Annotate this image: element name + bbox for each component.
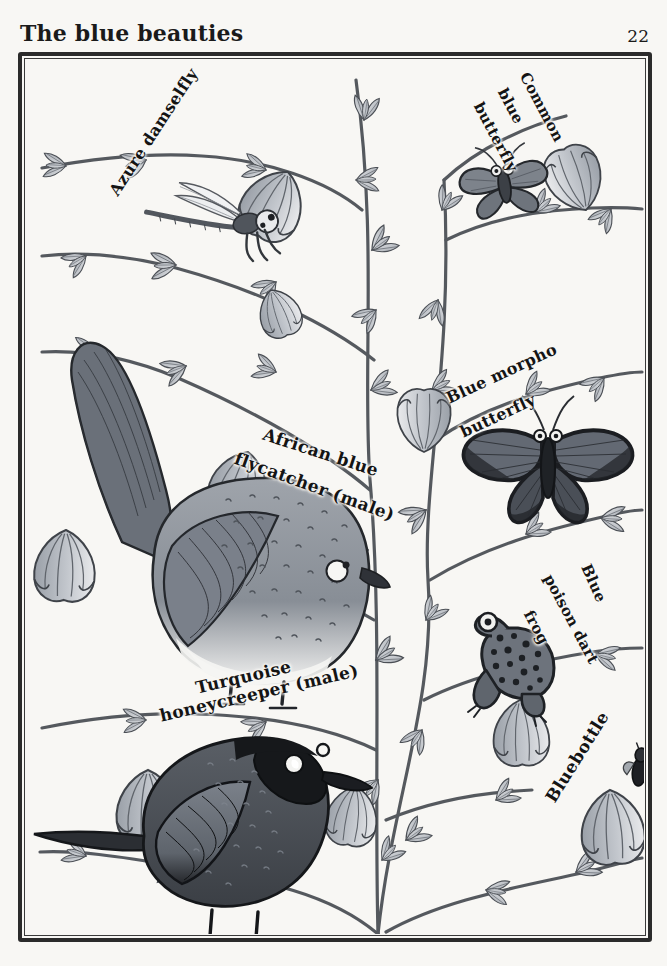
illustration-plate: Azure damselfly Common blue butterfly Af…: [18, 52, 652, 942]
page-title: The blue beauties: [20, 20, 243, 46]
plate-artwork: [26, 60, 644, 934]
page-header: The blue beauties 22: [0, 0, 667, 50]
book-page: The blue beauties 22: [0, 0, 667, 966]
botanical-illustration: [26, 60, 644, 934]
page-number: 22: [627, 26, 649, 46]
